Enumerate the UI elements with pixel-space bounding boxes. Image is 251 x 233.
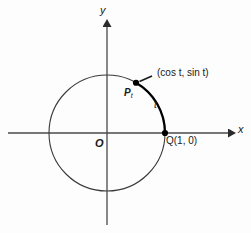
point-p-letter: P — [124, 87, 131, 98]
y-axis-label: y — [100, 5, 106, 16]
origin-label: O — [95, 138, 104, 149]
point-p-marker — [133, 80, 139, 86]
point-q-label: Q(1, 0) — [166, 136, 197, 146]
arc-parameter-label: t — [154, 100, 157, 110]
arc-t-path — [136, 83, 165, 133]
point-p-label: Pt — [124, 88, 133, 99]
coords-leader-line — [140, 76, 153, 82]
point-p-coordinates-label: (cos t, sin t) — [157, 68, 209, 78]
unit-circle-figure: y x O Q(1, 0) (cos t, sin t) Pt t — [0, 0, 251, 233]
x-axis-label: x — [238, 124, 244, 135]
point-p-subscript: t — [131, 92, 133, 99]
unit-circle-diagram — [0, 0, 251, 233]
